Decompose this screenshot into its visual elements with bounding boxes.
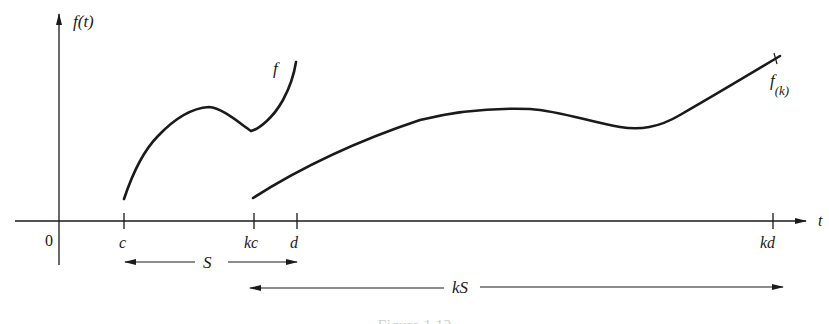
figure-caption: Figure 1.13 <box>0 314 829 324</box>
curve-f-k-label: f(k) <box>770 71 789 98</box>
x-axis-label: t <box>818 212 823 229</box>
tick-label-c: c <box>119 234 126 251</box>
interval-S-label: S <box>203 253 212 272</box>
interval-kS-arrow <box>250 287 783 288</box>
tick-label-kd: kd <box>760 234 776 251</box>
curve-f <box>124 62 296 199</box>
scaling-diagram: f(t) t 0 c kc d kd f f(k) <box>0 0 829 324</box>
interval-kS-label: kS <box>452 278 469 297</box>
tick-label-kc: kc <box>244 234 258 251</box>
curve-f-k <box>253 56 780 198</box>
y-axis-label: f(t) <box>73 12 94 31</box>
origin-label: 0 <box>45 232 53 249</box>
curve-f-label: f <box>273 59 280 78</box>
tick-label-d: d <box>290 234 299 251</box>
